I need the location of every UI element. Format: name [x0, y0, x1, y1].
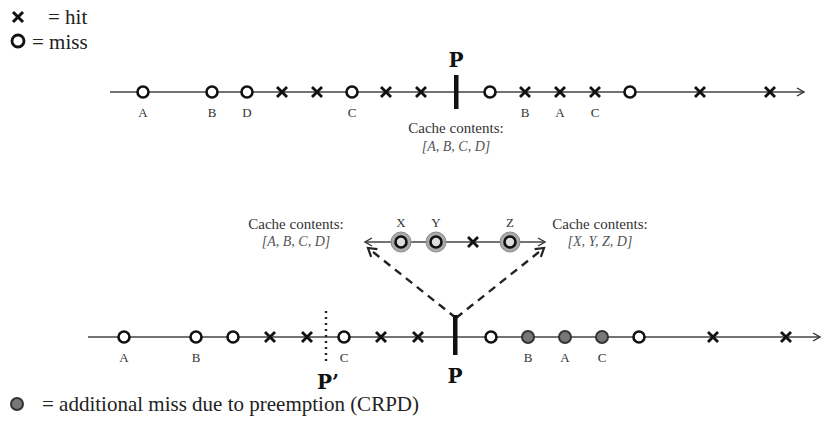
- right-cache-set: [X, Y, Z, D]: [568, 234, 633, 249]
- miss-icon: [138, 87, 149, 98]
- miss-icon: [634, 332, 645, 343]
- event-label: B: [192, 350, 201, 365]
- miss-icon: [228, 332, 239, 343]
- event-miss: [625, 87, 636, 98]
- legend-crpd-label: = additional miss due to preemption (CRP…: [42, 392, 419, 416]
- legend-hit-label: = hit: [48, 5, 87, 29]
- event-label: C: [598, 350, 607, 365]
- bottom-timeline: P’ ABCBAC P: [88, 311, 820, 394]
- event-miss-highlight: Y: [426, 215, 446, 252]
- crpd-icon: [11, 398, 23, 410]
- miss-icon: [207, 87, 218, 98]
- legend-miss-label: = miss: [32, 30, 88, 54]
- event-label: X: [396, 215, 406, 230]
- event-crpd: C: [596, 331, 608, 365]
- event-miss-highlight: X: [391, 215, 411, 252]
- miss-icon: [339, 332, 350, 343]
- event-label: Y: [431, 215, 441, 230]
- event-miss: B: [207, 87, 218, 121]
- miss-icon: [486, 332, 497, 343]
- left-cache-title: Cache contents:: [248, 216, 343, 232]
- event-miss: [228, 332, 239, 343]
- preemption-marker: [453, 315, 458, 355]
- event-miss: D: [242, 87, 253, 121]
- event-label: D: [242, 105, 251, 120]
- event-crpd: B: [522, 331, 534, 365]
- event-miss: [634, 332, 645, 343]
- left-cache-set: [A, B, C, D]: [262, 234, 330, 249]
- right-cache-title: Cache contents:: [552, 216, 647, 232]
- miss-icon: [12, 35, 24, 47]
- event-label: C: [591, 105, 600, 120]
- event-label: A: [119, 350, 129, 365]
- crpd-miss-icon: [522, 331, 534, 343]
- miss-icon: [625, 87, 636, 98]
- preemption-label: P: [448, 48, 463, 72]
- miss-icon: [396, 237, 407, 248]
- cache-preemption-diagram: = hit = miss = additional miss due to pr…: [0, 0, 827, 433]
- miss-icon: [485, 87, 496, 98]
- event-label: A: [560, 350, 570, 365]
- miss-icon: [347, 87, 358, 98]
- miss-icon: [505, 237, 516, 248]
- alt-preemption-label: P’: [317, 370, 339, 394]
- event-label: Z: [506, 215, 514, 230]
- event-miss: C: [347, 87, 358, 121]
- event-miss: A: [119, 332, 130, 366]
- top-timeline: ABDCBAC P Cache contents: [A, B, C, D]: [110, 48, 804, 154]
- preemption-marker: [454, 75, 459, 109]
- event-miss: [486, 332, 497, 343]
- dashed-arrow-left: [368, 248, 456, 318]
- crpd-miss-icon: [596, 331, 608, 343]
- preempting-task: XYZ Cache contents: [A, B, C, D] Cache c…: [248, 215, 647, 318]
- dashed-arrow-right: [456, 248, 544, 318]
- preemption-label: P: [447, 364, 462, 388]
- miss-icon: [431, 237, 442, 248]
- legend: = hit = miss = additional miss due to pr…: [11, 5, 419, 416]
- event-label: B: [524, 350, 533, 365]
- event-miss-highlight: Z: [500, 215, 520, 252]
- cache-contents-title: Cache contents:: [408, 120, 503, 136]
- event-label: B: [208, 105, 217, 120]
- miss-icon: [119, 332, 130, 343]
- miss-icon: [191, 332, 202, 343]
- event-miss: C: [339, 332, 350, 366]
- event-miss: [485, 87, 496, 98]
- event-miss: B: [191, 332, 202, 366]
- event-label: B: [521, 105, 530, 120]
- cache-contents-set: [A, B, C, D]: [422, 139, 490, 154]
- event-label: A: [138, 105, 148, 120]
- hit-icon: [13, 12, 23, 22]
- event-crpd: A: [559, 331, 571, 365]
- event-label: A: [555, 105, 565, 120]
- event-label: C: [340, 350, 349, 365]
- crpd-miss-icon: [559, 331, 571, 343]
- miss-icon: [242, 87, 253, 98]
- event-label: C: [348, 105, 357, 120]
- event-miss: A: [138, 87, 149, 121]
